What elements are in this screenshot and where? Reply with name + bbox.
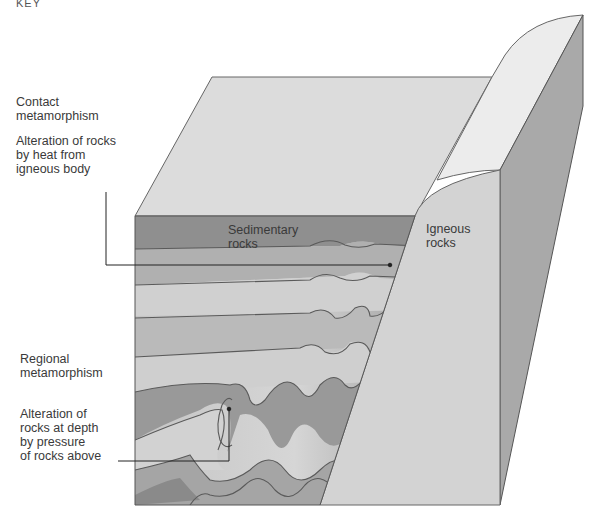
contact-metamorphism-description: Alteration of rocks by heat from igneous… <box>16 134 116 176</box>
igneous-rocks-label: Igneous rocks <box>426 222 470 250</box>
key-title: KEY <box>16 0 41 10</box>
regional-metamorphism-description: Alteration of rocks at depth by pressure… <box>20 407 101 463</box>
sedimentary-rocks-label: Sedimentary rocks <box>228 223 298 251</box>
contact-metamorphism-heading: Contact metamorphism <box>16 95 99 123</box>
regional-metamorphism-heading: Regional metamorphism <box>20 352 103 380</box>
